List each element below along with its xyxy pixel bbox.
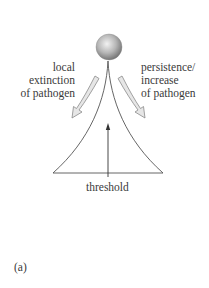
diagram-canvas	[0, 0, 209, 288]
right-label-line-1: persistence/	[141, 61, 196, 74]
panel-label: (a)	[14, 261, 27, 274]
left-direction-arrow-icon	[72, 76, 99, 118]
ball-icon	[96, 34, 122, 60]
persistence-increase-label: persistence/ increase of pathogen	[141, 61, 196, 100]
right-label-line-2: increase	[141, 74, 196, 87]
threshold-label: threshold	[86, 181, 129, 194]
left-label-line-2: extinction	[20, 74, 75, 87]
left-label-line-1: local	[20, 61, 75, 74]
left-label-line-3: of pathogen	[20, 87, 75, 100]
threshold-arrow	[106, 123, 110, 177]
right-label-line-3: of pathogen	[141, 87, 196, 100]
local-extinction-label: local extinction of pathogen	[20, 61, 75, 100]
